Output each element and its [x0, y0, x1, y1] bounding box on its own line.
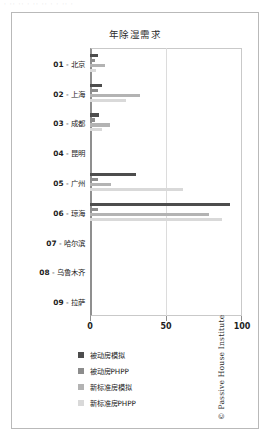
- copyright-notice: © Passive House Institute: [226, 328, 252, 420]
- bar: [90, 123, 110, 126]
- category-index: 04: [53, 149, 63, 158]
- bar-group: 08 - 乌鲁木齐: [90, 256, 242, 286]
- bar: [90, 208, 98, 211]
- category-label: 05 - 广州: [53, 176, 85, 187]
- legend-label: 被动房模拟: [90, 350, 125, 360]
- bar: [90, 128, 102, 131]
- bar: [90, 188, 183, 191]
- bar: [90, 203, 230, 206]
- bar: [90, 54, 98, 57]
- bar-group: 07 - 哈尔滨: [90, 227, 242, 257]
- category-name: - 哈尔滨: [57, 238, 85, 247]
- copyright-text: © Passive House Institute: [217, 315, 226, 420]
- category-name: - 北京: [64, 59, 85, 68]
- category-index: 03: [53, 119, 63, 128]
- category-label: 09 - 拉萨: [53, 296, 85, 307]
- bar: [90, 89, 98, 92]
- chart-figure: 年除湿需求 01 - 北京02 - 上海03 - 成都04 - 昆明05 - 广…: [11, 12, 259, 429]
- category-index: 06: [53, 208, 63, 217]
- category-name: - 乌鲁木齐: [50, 268, 85, 277]
- bar-group: 06 - 琼海: [90, 197, 242, 227]
- bar-group: 05 - 广州: [90, 167, 242, 197]
- category-name: - 成都: [64, 119, 85, 128]
- bar: [90, 99, 126, 102]
- bar: [90, 64, 105, 67]
- category-label: 03 - 成都: [53, 117, 85, 128]
- bar-group: 02 - 上海: [90, 78, 242, 108]
- legend-swatch: [78, 368, 84, 374]
- tick-mark: [90, 316, 91, 321]
- bar: [90, 94, 140, 97]
- category-index: 08: [39, 268, 49, 277]
- bar: [90, 84, 102, 87]
- category-name: - 昆明: [64, 149, 85, 158]
- category-index: 02: [53, 89, 63, 98]
- category-label: 08 - 乌鲁木齐: [39, 266, 85, 277]
- tick-mark: [166, 316, 167, 321]
- category-label: 04 - 昆明: [53, 147, 85, 158]
- bar-group: 09 - 拉萨: [90, 286, 242, 316]
- clipped-top-text: · ·· ·· · ·· ·· · · ·· ·: [4, 0, 266, 9]
- tick-mark: [241, 316, 242, 321]
- x-tick-label: 50: [160, 322, 171, 331]
- category-name: - 琼海: [64, 208, 85, 217]
- category-index: 07: [46, 238, 56, 247]
- category-name: - 上海: [64, 89, 85, 98]
- legend-swatch: [78, 400, 84, 406]
- legend-label: 新标准房模拟: [90, 382, 132, 392]
- category-label: 07 - 哈尔滨: [46, 236, 85, 247]
- legend-swatch: [78, 384, 84, 390]
- legend-item[interactable]: 被动房PHPP: [78, 363, 198, 379]
- category-label: 02 - 上海: [53, 87, 85, 98]
- category-label: 01 - 北京: [53, 57, 85, 68]
- category-index: 09: [53, 298, 63, 307]
- bar: [90, 178, 98, 181]
- chart-legend: 被动房模拟被动房PHPP新标准房模拟新标准房PHPP: [78, 347, 198, 411]
- category-index: 05: [53, 178, 63, 187]
- chart-title: 年除湿需求: [12, 27, 258, 41]
- bar: [90, 173, 136, 176]
- bar: [90, 218, 222, 221]
- legend-item[interactable]: 被动房模拟: [78, 347, 198, 363]
- bar-group: 04 - 昆明: [90, 137, 242, 167]
- x-tick-label: 0: [87, 322, 93, 331]
- bar-rows: 01 - 北京02 - 上海03 - 成都04 - 昆明05 - 广州06 - …: [90, 48, 242, 316]
- legend-label: 被动房PHPP: [90, 366, 129, 376]
- bar: [90, 59, 95, 62]
- bar: [90, 118, 95, 121]
- category-name: - 拉萨: [64, 298, 85, 307]
- legend-label: 新标准房PHPP: [90, 398, 136, 408]
- bar-group: 03 - 成都: [90, 108, 242, 138]
- category-label: 06 - 琼海: [53, 206, 85, 217]
- bar-group: 01 - 北京: [90, 48, 242, 78]
- category-index: 01: [53, 59, 63, 68]
- bar: [90, 213, 209, 216]
- bar: [90, 183, 111, 186]
- legend-item[interactable]: 新标准房模拟: [78, 379, 198, 395]
- plot-area: 01 - 北京02 - 上海03 - 成都04 - 昆明05 - 广州06 - …: [90, 48, 242, 316]
- legend-swatch: [78, 352, 84, 358]
- bar: [90, 113, 99, 116]
- category-name: - 广州: [64, 178, 85, 187]
- bar: [90, 69, 96, 72]
- legend-item[interactable]: 新标准房PHPP: [78, 395, 198, 411]
